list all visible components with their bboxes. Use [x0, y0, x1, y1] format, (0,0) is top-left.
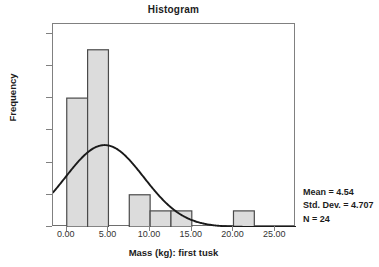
y-tick-mark [46, 33, 52, 34]
y-tick-mark [46, 65, 52, 66]
histogram-bar [88, 50, 109, 227]
statistics-annotation: Mean = 4.54 Std. Dev. = 4.707 N = 24 [303, 186, 374, 226]
x-tick-mark [66, 226, 67, 231]
bars-group [67, 50, 255, 227]
y-tick-mark [46, 162, 52, 163]
plot-canvas [53, 24, 296, 227]
y-tick-mark [46, 129, 52, 130]
x-tick-mark [107, 226, 108, 231]
stat-mean: Mean = 4.54 [303, 186, 374, 199]
histogram-bar [129, 195, 150, 227]
x-axis-title: Mass (kg): first tusk [52, 247, 295, 258]
histogram-bar [233, 211, 254, 227]
y-tick-mark [46, 97, 52, 98]
x-tick-mark [232, 226, 233, 231]
chart-title: Histogram [52, 4, 295, 15]
y-axis-title: Frequency [7, 38, 18, 158]
x-tick-label: 25.00 [244, 230, 304, 239]
x-tick-mark [274, 226, 275, 231]
histogram-bar [150, 211, 171, 227]
stat-std-dev: Std. Dev. = 4.707 [303, 199, 374, 212]
y-tick-mark [46, 226, 52, 227]
histogram-figure: Histogram Frequency Mass (kg): first tus… [0, 0, 379, 267]
x-tick-mark [149, 226, 150, 231]
stat-n: N = 24 [303, 213, 374, 226]
plot-area [52, 23, 295, 226]
x-tick-mark [191, 226, 192, 231]
y-tick-mark [46, 194, 52, 195]
